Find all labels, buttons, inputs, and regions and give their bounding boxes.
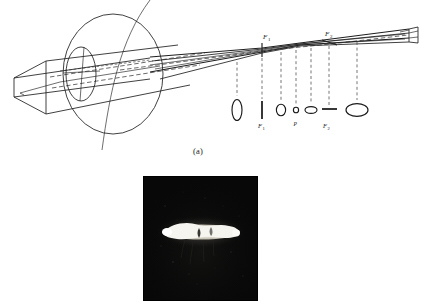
lens-large-ellipse [63,14,163,134]
cross-section-small-circle [293,107,298,113]
cross-section-vertical-ellipse [232,100,242,121]
meridional-arc [102,0,150,150]
panel-a-caption: (a) [0,146,422,156]
label-p-lower: P [293,121,298,127]
cross-section-horizontal-ellipse [346,104,368,117]
optics-diagram-svg: .ln { fill:none; stroke:#1f1f1f; stroke-… [0,0,422,160]
cross-section-circle [276,104,285,116]
label-f2-lower-sub: 2 [328,126,331,131]
photograph-svg [143,176,258,301]
cross-section-horizontal-ellipse-small [305,107,317,114]
label-f1-lower-sub: 1 [263,126,266,131]
panel-a-optics-diagram: .ln { fill:none; stroke:#1f1f1f; stroke-… [0,0,422,160]
beam-hidden-edges [50,53,205,88]
label-f1-upper-sub: 1 [268,37,271,42]
lens-inner-ellipse [66,47,96,101]
panel-b-photograph [143,176,258,301]
streak-tip-right [232,230,240,237]
panel-a-caption-text: (a) [193,146,203,156]
figure-root: .ln { fill:none; stroke:#1f1f1f; stroke-… [0,0,422,307]
streak-tip-left [162,228,172,236]
